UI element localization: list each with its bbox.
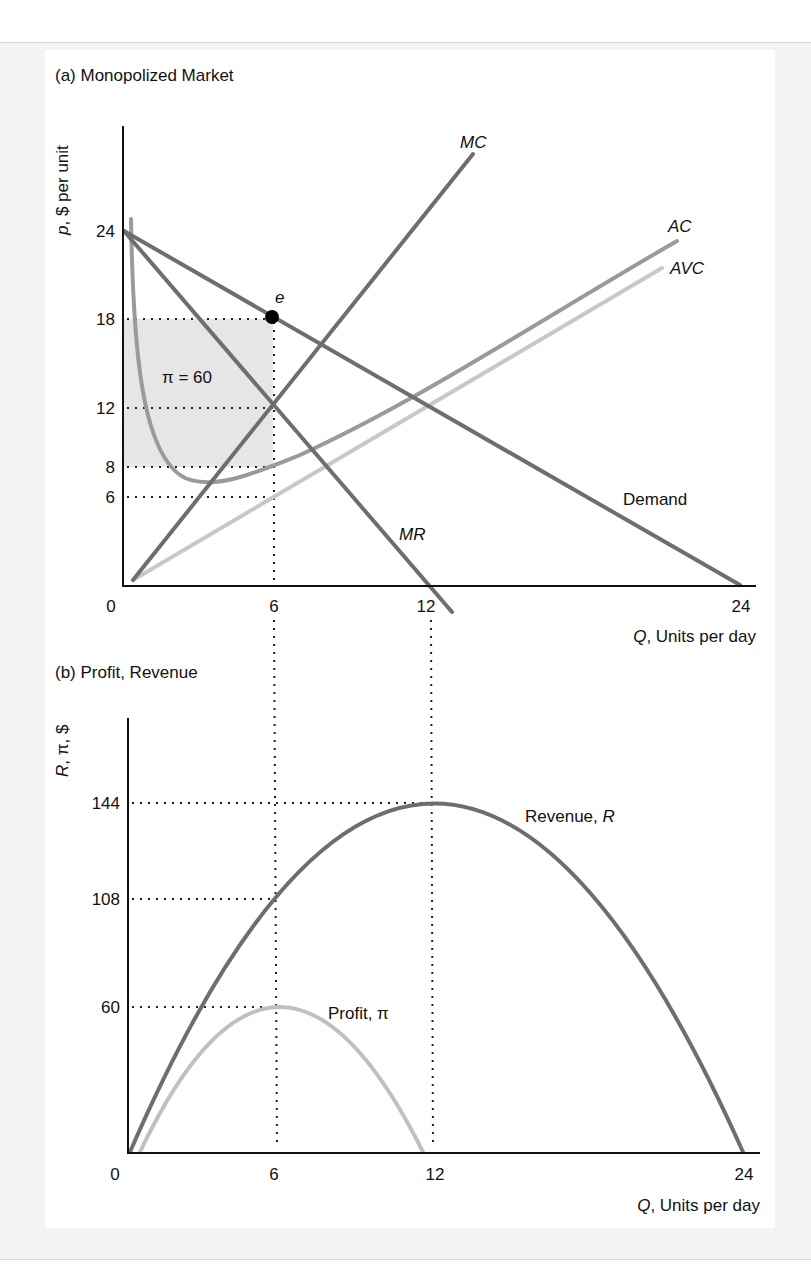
svg-text:18: 18: [96, 310, 115, 329]
panel-b-x-axis-label: Q, Units per day: [637, 1196, 760, 1215]
svg-text:0: 0: [106, 597, 115, 616]
demand-label: Demand: [623, 490, 687, 509]
figure-svg: (a) Monopolized Market p, $ per unit π =…: [0, 0, 811, 1277]
svg-text:24: 24: [96, 222, 115, 241]
panel-a-title: (a) Monopolized Market: [55, 66, 234, 85]
panel-b-y-ticks: 144 108 60: [92, 794, 120, 1017]
profit-label: π = 60: [162, 368, 212, 387]
panel-b-guides: [132, 803, 430, 1007]
panel-a-y-ticks: 24 18 12 8 6: [96, 222, 115, 507]
svg-text:144: 144: [92, 794, 120, 813]
svg-text:0: 0: [110, 1165, 119, 1184]
panel-b-y-axis-label: R, π, $: [53, 724, 72, 777]
equilibrium-point-e: [265, 310, 279, 324]
panel-a-x-axis-label: Q, Units per day: [633, 627, 756, 646]
svg-text:12: 12: [426, 1165, 445, 1184]
svg-text:6: 6: [106, 488, 115, 507]
avc-label: AVC: [669, 259, 705, 278]
ac-label: AC: [667, 217, 692, 236]
panel-b-x-ticks: 0 6 12 24: [110, 1165, 753, 1184]
revenue-curve: [130, 804, 743, 1153]
mc-label: MC: [460, 133, 487, 152]
profit-area-shade: [124, 319, 273, 467]
cross-panel-guides: [274, 620, 433, 1148]
panel-b-profit-revenue: (b) Profit, Revenue R, π, $ Revenue, R P…: [53, 663, 760, 1215]
mr-label: MR: [399, 525, 425, 544]
profit-curve: [140, 1007, 423, 1152]
revenue-label: Revenue, R: [525, 807, 615, 826]
panel-a-monopolized-market: (a) Monopolized Market p, $ per unit π =…: [53, 66, 756, 646]
svg-text:60: 60: [101, 998, 120, 1017]
svg-text:6: 6: [269, 1165, 278, 1184]
panel-a-x-ticks: 0 6 12 24: [106, 597, 750, 616]
svg-text:24: 24: [732, 597, 751, 616]
panel-a-y-axis-label: p, $ per unit: [53, 145, 72, 236]
profit-curve-label: Profit, π: [328, 1004, 389, 1023]
panel-b-title: (b) Profit, Revenue: [55, 663, 198, 682]
svg-text:12: 12: [96, 399, 115, 418]
svg-text:24: 24: [735, 1165, 754, 1184]
svg-text:8: 8: [106, 458, 115, 477]
point-e-label: e: [275, 288, 284, 307]
svg-text:12: 12: [417, 597, 436, 616]
svg-text:6: 6: [269, 597, 278, 616]
svg-text:108: 108: [92, 890, 120, 909]
